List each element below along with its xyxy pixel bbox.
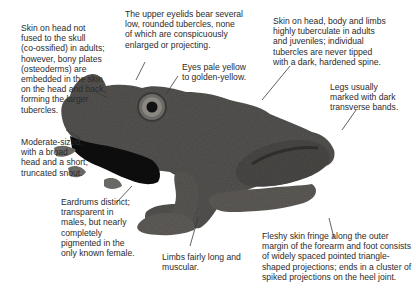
frog-eye [138, 93, 166, 121]
frog-toe [104, 178, 122, 189]
annotation-legs: Legs usually marked with dark transverse… [330, 82, 398, 113]
annotation-eardrums: Eardrums distinct; transparent in males,… [61, 197, 135, 258]
annotation-limbs: Limbs fairly long and muscular. [162, 252, 241, 272]
annotation-skin-body: Skin on head, body and limbs highly tube… [273, 16, 386, 67]
annotation-skin-head: Skin on head not fused to the skull (co-… [21, 23, 106, 115]
annotation-skin-fringe: Fleshy skin fringe along the outer margi… [262, 231, 411, 282]
frog-anatomy-diagram: Skin on head not fused to the skull (co-… [0, 0, 416, 294]
annotation-eyelids: The upper eyelids bear several low, roun… [125, 9, 243, 50]
annotation-size: Moderate-sized, with a broad head and a … [21, 137, 88, 178]
annotation-eyes: Eyes pale yellow to golden-yellow. [182, 62, 246, 82]
